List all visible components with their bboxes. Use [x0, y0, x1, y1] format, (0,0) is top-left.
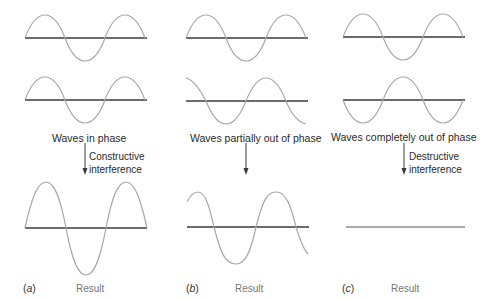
arrow-head-icon: [244, 168, 249, 175]
paren-close: ): [32, 282, 36, 294]
caption-a: Waves in phase: [52, 132, 126, 144]
paren-close: ): [195, 282, 199, 294]
result-wave: [187, 192, 308, 264]
paren-close: ): [351, 282, 355, 294]
arrow-head-icon: [83, 168, 88, 175]
interference-line1: Constructive: [89, 150, 145, 163]
result-label-b: Result: [235, 283, 263, 294]
arrow-head-icon: [402, 168, 407, 175]
interference-line1: Destructive: [409, 150, 462, 163]
caption-b: Waves partially out of phase: [190, 132, 322, 144]
interference-line2: interference: [89, 163, 145, 176]
result-label-c: Result: [391, 283, 419, 294]
panel-c: [343, 14, 465, 227]
panel-a: [25, 15, 147, 275]
panel-label-c: (c): [342, 282, 354, 294]
panel-label-b: (b): [186, 282, 199, 294]
interference-line2: interference: [409, 163, 462, 176]
interference-label-c: Destructive interference: [409, 150, 462, 176]
caption-c: Waves completely out of phase: [331, 131, 477, 143]
panel-label-a: (a): [23, 282, 36, 294]
result-label-a: Result: [76, 283, 104, 294]
interference-label-a: Constructive interference: [89, 150, 145, 176]
